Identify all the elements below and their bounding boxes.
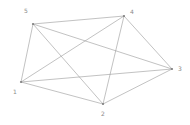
vertex-layer [20, 15, 173, 105]
graph-vertex-2 [102, 103, 104, 105]
graph-edge-2-4 [103, 16, 124, 104]
graph-vertex-1 [20, 81, 22, 83]
graph-vertex-5 [32, 23, 34, 25]
graph-edge-1-5 [21, 24, 33, 82]
graph-vertex-label-2: 2 [101, 111, 105, 117]
graph-vertex-label-4: 4 [130, 9, 134, 15]
graph-vertex-3 [171, 68, 173, 70]
graph-edge-1-3 [21, 69, 172, 82]
graph-edge-1-4 [21, 16, 124, 82]
graph-figure: 12345 [0, 0, 190, 125]
graph-edge-1-2 [21, 82, 103, 104]
graph-canvas [0, 0, 190, 125]
graph-edge-4-5 [33, 16, 124, 24]
graph-vertex-label-1: 1 [13, 89, 17, 95]
graph-edge-3-5 [33, 24, 172, 69]
graph-vertex-4 [123, 15, 125, 17]
graph-vertex-label-3: 3 [178, 66, 182, 72]
edge-layer [21, 16, 172, 104]
graph-vertex-label-5: 5 [24, 8, 28, 14]
